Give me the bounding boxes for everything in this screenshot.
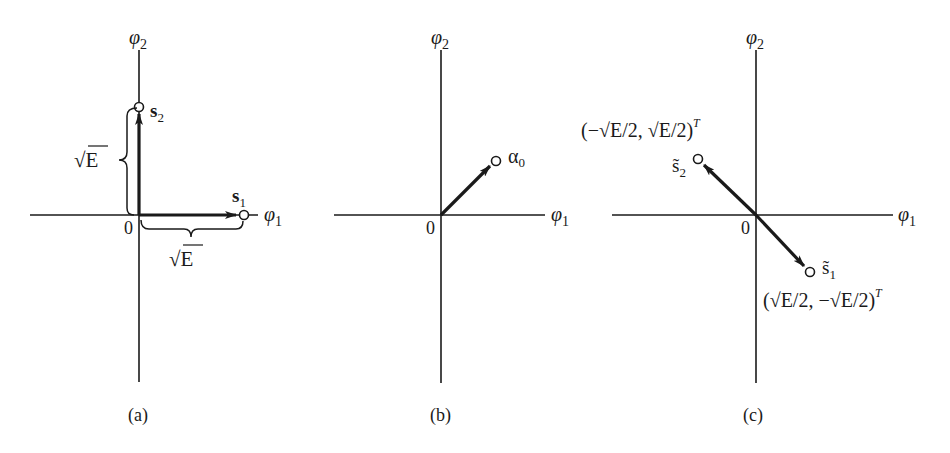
label-s2-tilde: s̃2 <box>672 155 686 180</box>
origin-label: 0 <box>124 218 133 238</box>
horizontal-brace <box>141 220 243 237</box>
phi1-axis-label: φ1 <box>264 203 282 229</box>
panel-b: φ2 φ1 0 α0 (b) <box>334 26 569 426</box>
vertical-brace-label: √E <box>74 148 98 172</box>
phi2-axis-label: φ2 <box>129 26 147 52</box>
point-s2 <box>135 103 144 112</box>
label-s1: s1 <box>232 185 246 210</box>
caption-b: (b) <box>430 405 451 426</box>
panel-c: φ2 φ1 0 s̃2 (−√E/2, √E/2)T s̃1 (√E/2, −√… <box>581 26 916 426</box>
caption-a: (a) <box>128 405 148 426</box>
phi2-axis-label: φ2 <box>746 26 764 52</box>
vector-alpha0 <box>441 166 490 215</box>
vector-s1-tilde <box>756 215 804 266</box>
point-alpha0 <box>492 157 501 166</box>
label-s1-tilde: s̃1 <box>822 257 836 282</box>
point-s2-tilde <box>694 155 703 164</box>
origin-label: 0 <box>426 218 435 238</box>
phi1-axis-label: φ1 <box>551 203 569 229</box>
coord-s1-tilde: (√E/2, −√E/2)T <box>763 286 883 312</box>
signal-space-figure: φ2 φ1 0 s2 s1 √E √E (a) φ2 φ1 0 α0 (b) <box>0 0 950 453</box>
phi1-axis-label: φ1 <box>898 203 916 229</box>
coord-s2-tilde: (−√E/2, √E/2)T <box>581 116 701 142</box>
caption-c: (c) <box>743 405 763 426</box>
horizontal-brace-label: √E <box>169 247 193 271</box>
panel-a: φ2 φ1 0 s2 s1 √E √E (a) <box>30 26 282 426</box>
vector-s2-tilde <box>704 165 756 215</box>
point-s1 <box>240 211 249 220</box>
label-s2: s2 <box>150 100 164 125</box>
origin-label: 0 <box>741 218 750 238</box>
vertical-brace <box>119 108 137 215</box>
point-s1-tilde <box>806 268 815 277</box>
label-alpha0: α0 <box>508 145 525 170</box>
phi2-axis-label: φ2 <box>431 26 449 52</box>
